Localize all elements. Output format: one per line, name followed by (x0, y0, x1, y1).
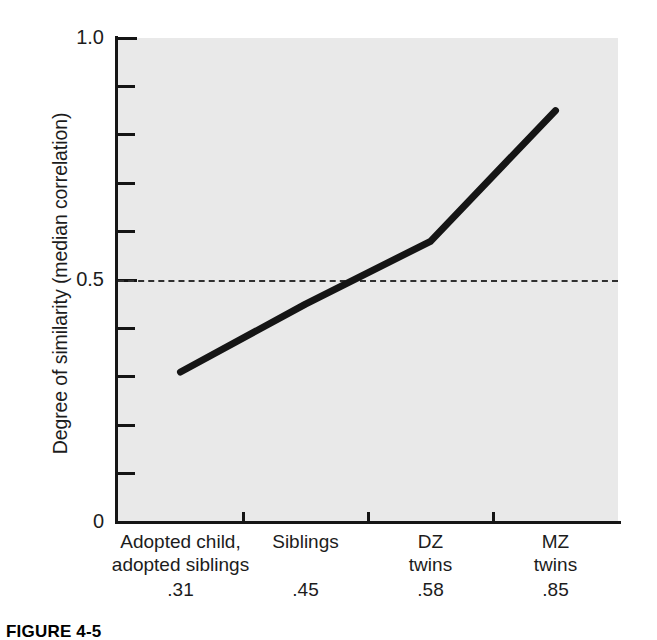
x-axis-category-line: Siblings (243, 530, 368, 553)
x-axis-category-line: MZ (493, 530, 618, 553)
figure-caption: FIGURE 4-5 (6, 622, 102, 640)
y-axis-minor-tick (118, 424, 135, 427)
x-axis-category-line: twins (493, 553, 618, 576)
y-axis-minor-tick (118, 472, 135, 475)
x-axis-divider-tick (242, 512, 245, 522)
y-axis-tick-label: 1.0 (52, 27, 104, 47)
y-axis-minor-tick (118, 230, 135, 233)
x-axis-divider-tick (367, 512, 370, 522)
x-axis-category-line: Adopted child, (100, 530, 261, 553)
figure-container: Degree of similarity (median correlation… (0, 0, 657, 640)
x-axis-value-label: .58 (368, 578, 493, 601)
y-axis-minor-tick (118, 85, 135, 88)
x-axis-category-line: twins (368, 553, 493, 576)
x-axis-value-label: .85 (493, 578, 618, 601)
x-axis-value-label: .45 (243, 578, 368, 601)
y-axis-minor-tick (118, 375, 135, 378)
y-axis-tick-label: 0.5 (52, 269, 104, 289)
y-axis-minor-tick (118, 133, 135, 136)
x-axis-category-label: Siblings .45 (243, 530, 368, 601)
x-axis-category-line (243, 553, 368, 576)
x-axis-value-label: .31 (100, 578, 261, 601)
x-axis-category-label: Adopted child,adopted siblings.31 (100, 530, 261, 601)
y-axis-tick-label: 0 (52, 511, 104, 531)
x-axis-category-label: DZtwins.58 (368, 530, 493, 601)
x-axis-divider-tick (492, 512, 495, 522)
x-axis-labels: Adopted child,adopted siblings.31Sibling… (118, 530, 618, 610)
x-axis-category-line: adopted siblings (100, 553, 261, 576)
x-axis-category-line: DZ (368, 530, 493, 553)
x-axis-category-label: MZtwins.85 (493, 530, 618, 601)
reference-line-0.5 (118, 280, 618, 282)
y-axis-major-tick (118, 37, 137, 40)
y-axis-minor-tick (118, 327, 135, 330)
y-axis-minor-tick (118, 182, 135, 185)
